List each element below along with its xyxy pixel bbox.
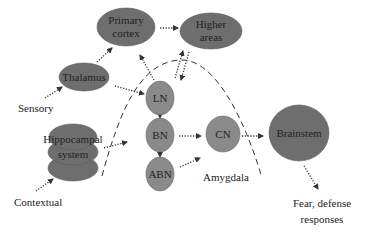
- node-abn: ABN: [146, 157, 174, 191]
- ln-label: LN: [153, 92, 168, 104]
- higher-areas-line1: Higher: [196, 18, 227, 30]
- node-cn: CN: [206, 116, 240, 152]
- arrow-ln-primary-cortex: [140, 55, 154, 80]
- node-hippocampal-system: Hippocampal system: [43, 124, 102, 181]
- node-ln: LN: [146, 81, 174, 115]
- output-label-line1: Fear, defense: [293, 197, 351, 209]
- arrow-contextual-hippocampal: [36, 179, 53, 191]
- arrow-abn-cn: [180, 158, 200, 167]
- bn-label: BN: [152, 129, 167, 141]
- higher-areas-line2: areas: [200, 31, 223, 43]
- hippocampal-line2: system: [58, 148, 89, 160]
- amygdala-boundary: [102, 60, 262, 178]
- node-brainstem: Brainstem: [269, 105, 329, 161]
- node-bn: BN: [146, 118, 174, 152]
- primary-cortex-line1: Primary: [108, 14, 144, 26]
- cn-label: CN: [215, 128, 230, 140]
- node-thalamus: Thalamus: [59, 63, 109, 91]
- hippocampal-line1: Hippocampal: [43, 133, 102, 145]
- arrow-brainstem-output: [304, 166, 318, 189]
- contextual-label: Contextual: [14, 196, 62, 208]
- brainstem-label: Brainstem: [276, 127, 322, 139]
- arrow-higher-areas-ln: [181, 52, 189, 80]
- output-label-line2: responses: [301, 213, 344, 225]
- amygdala-pathway-diagram: Primary cortex Higher areas Thalamus Hip…: [0, 0, 365, 236]
- thalamus-label: Thalamus: [62, 71, 105, 83]
- amygdala-label: Amygdala: [203, 171, 249, 183]
- node-higher-areas: Higher areas: [180, 13, 242, 49]
- sensory-label: Sensory: [18, 102, 54, 114]
- primary-cortex-line2: cortex: [112, 27, 140, 39]
- abn-label: ABN: [148, 168, 171, 180]
- arrow-sensory-thalamus: [45, 87, 62, 98]
- arrow-ln-higher-areas: [175, 51, 183, 78]
- arrow-hippocampal-bn: [104, 142, 127, 148]
- arrow-thalamus-ln: [115, 86, 144, 94]
- node-primary-cortex: Primary cortex: [97, 8, 155, 46]
- arrow-thalamus-primary-cortex: [97, 48, 112, 62]
